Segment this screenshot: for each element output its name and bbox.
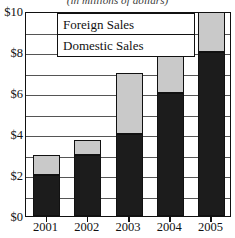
bar-2005 xyxy=(198,12,225,216)
x-axis-labels: 20012002200320042005 xyxy=(25,220,231,238)
legend-item-domestic-sales: Domestic Sales xyxy=(58,35,194,56)
stacked-bar-chart: (in millions of dollars) $0$2$4$6$8$10 2… xyxy=(0,0,235,238)
y-axis-tick-label: $8 xyxy=(11,47,24,60)
chart-subtitle: (in millions of dollars) xyxy=(0,0,235,6)
y-axis-tick-label: $2 xyxy=(11,170,24,183)
bar-segment-foreign-sales-2001 xyxy=(33,155,60,176)
bar-segment-domestic-sales-2005 xyxy=(198,52,225,216)
bar-segment-foreign-sales-2002 xyxy=(74,140,101,154)
x-axis-tick-label: 2004 xyxy=(157,220,182,235)
bar-segment-domestic-sales-2002 xyxy=(74,155,101,217)
y-axis-tick-label: $6 xyxy=(11,88,24,101)
legend-label: Domestic Sales xyxy=(58,39,144,52)
x-axis-tick-label: 2003 xyxy=(116,220,141,235)
x-axis-tick-label: 2001 xyxy=(33,220,58,235)
bar-segment-domestic-sales-2001 xyxy=(33,175,60,216)
bar-segment-foreign-sales-2005 xyxy=(198,12,225,52)
y-axis-tick-label: $4 xyxy=(11,129,24,142)
legend-label: Foreign Sales xyxy=(58,18,134,31)
bar-segment-domestic-sales-2004 xyxy=(157,93,184,216)
chart-legend: Foreign SalesDomestic Sales xyxy=(57,13,195,57)
bar-segment-domestic-sales-2003 xyxy=(116,134,143,216)
y-axis-tick-label: $10 xyxy=(4,6,23,19)
y-axis-tick-label: $0 xyxy=(11,211,24,224)
legend-item-foreign-sales: Foreign Sales xyxy=(58,14,194,35)
y-axis-labels: $0$2$4$6$8$10 xyxy=(0,0,24,238)
bar-segment-foreign-sales-2003 xyxy=(116,73,143,135)
x-axis-tick-label: 2002 xyxy=(74,220,99,235)
x-axis-tick-label: 2005 xyxy=(198,220,223,235)
